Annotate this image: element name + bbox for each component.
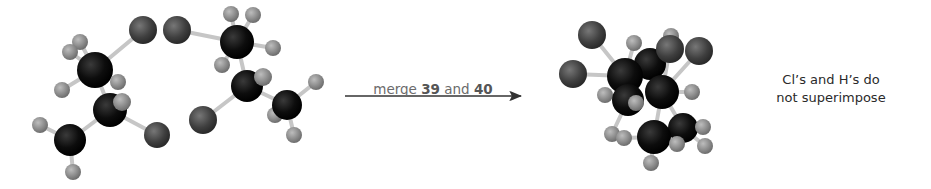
carbon-atom	[272, 90, 302, 120]
hydrogen-atom	[626, 35, 642, 51]
carbon-atom	[77, 52, 113, 88]
note-line-2: not superimpose	[756, 89, 906, 107]
hydrogen-atom	[110, 74, 126, 90]
superimpose-note: Cl’s and H’s do not superimpose	[756, 71, 906, 107]
chlorine-atom	[559, 60, 587, 88]
hydrogen-atom	[245, 7, 261, 23]
hydrogen-atom	[669, 136, 685, 152]
hydrogen-atom	[643, 155, 659, 171]
hydrogen-atom	[308, 74, 324, 90]
chlorine-atom	[578, 21, 606, 49]
hydrogen-atom	[214, 57, 230, 73]
chlorine-atom	[163, 16, 191, 44]
carbon-atom	[637, 120, 671, 154]
hydrogen-atom	[697, 138, 713, 154]
hydrogen-atom	[616, 130, 632, 146]
chlorine-atom	[129, 16, 157, 44]
molecule-40	[163, 6, 324, 143]
arrow-label-conjunction: and	[440, 81, 474, 97]
hydrogen-atom	[265, 40, 281, 56]
hydrogen-atom	[32, 117, 48, 133]
arrow-label-prefix: merge	[373, 81, 421, 97]
hydrogen-atom	[695, 119, 711, 135]
hydrogen-atom	[223, 6, 239, 22]
carbon-atom	[645, 75, 679, 109]
hydrogen-atom	[113, 93, 131, 111]
hydrogen-atom	[254, 68, 272, 86]
compound-number-40: 40	[474, 81, 493, 97]
hydrogen-atom	[684, 84, 700, 100]
hydrogen-atom	[597, 87, 613, 103]
hydrogen-atom	[62, 44, 78, 60]
hydrogen-atom	[628, 95, 644, 111]
arrow-label: merge 39 and 40	[358, 81, 508, 97]
carbon-atom	[220, 25, 254, 59]
carbon-atom	[54, 124, 86, 156]
chlorine-atom	[144, 122, 170, 148]
merged-structure	[559, 21, 713, 171]
chlorine-atom	[685, 37, 713, 65]
hydrogen-atom	[286, 127, 302, 143]
chlorine-atom	[656, 35, 684, 63]
hydrogen-atom	[54, 82, 70, 98]
compound-number-39: 39	[421, 81, 440, 97]
chlorine-atom	[189, 106, 217, 134]
note-line-1: Cl’s and H’s do	[756, 71, 906, 89]
molecule-39	[32, 16, 170, 180]
hydrogen-atom	[65, 164, 81, 180]
